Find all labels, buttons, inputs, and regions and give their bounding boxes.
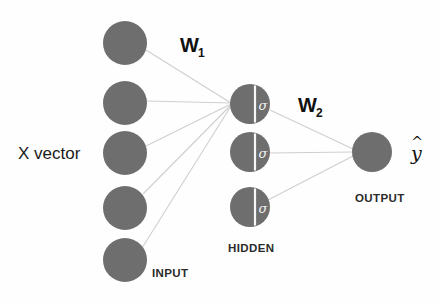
hidden-node-3[interactable]: σ [230,187,270,227]
neural-network-diagram: σ σ σ X vector W 1 W [0,0,441,304]
hidden-layer-nodes: σ σ σ [230,84,270,227]
edge-group-w2 [268,110,353,200]
edge-group-w1 [142,50,231,248]
edge-input5-hidden1 [142,106,231,248]
network-canvas: σ σ σ X vector W 1 W [0,0,441,304]
input-node-2[interactable] [103,81,147,125]
input-layer-label: INPUT [152,267,189,279]
input-node-3[interactable] [103,131,147,175]
weight-2-subscript: 2 [316,106,323,120]
edge-input2-hidden1 [147,101,231,103]
weight-2-symbol: W [298,94,317,116]
weight-matrix-1-label: W 1 [180,34,205,60]
weight-1-subscript: 1 [198,46,205,60]
weight-1-symbol: W [180,34,199,56]
sigma-icon-3: σ [259,201,269,216]
input-node-5[interactable] [103,238,147,282]
edge-input3-hidden1 [146,104,231,146]
output-node-1[interactable] [352,132,392,172]
output-layer-nodes [352,132,392,172]
hidden-layer-label: HIDDEN [228,242,275,254]
edge-input4-hidden1 [143,105,231,194]
weight-matrix-2-label: W 2 [298,94,323,120]
output-variable-label: ^ y [410,134,423,164]
input-node-1[interactable] [103,21,147,65]
sigma-icon-2: σ [259,146,269,161]
sigma-icon-1: σ [259,98,269,113]
hidden-node-2[interactable]: σ [230,132,270,172]
input-layer-nodes [103,21,147,282]
x-vector-label: X vector [18,144,81,163]
hidden-node-1[interactable]: σ [230,84,270,124]
edge-hidden3-output [268,156,353,200]
output-layer-label: OUTPUT [355,192,405,204]
edge-input1-hidden1 [146,50,231,103]
edge-hidden2-output [270,152,353,153]
input-node-4[interactable] [103,186,147,230]
yhat-symbol: y [410,142,422,164]
